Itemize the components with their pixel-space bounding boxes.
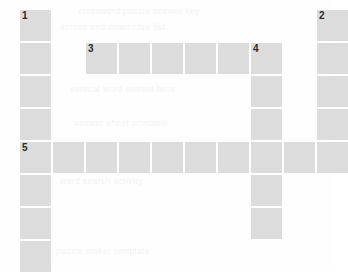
crossword-cell[interactable] [284,142,315,173]
crossword-cell[interactable]: 4 [251,43,282,74]
crossword-cell[interactable] [251,208,282,239]
crossword-cell[interactable] [20,76,51,107]
crossword-cell[interactable] [218,43,249,74]
crossword-cell[interactable] [53,142,84,173]
crossword-cell[interactable]: 3 [86,43,117,74]
crossword-cell[interactable]: 2 [317,10,348,41]
crossword-cell[interactable] [317,142,348,173]
crossword-cell[interactable] [251,109,282,140]
crossword-cell[interactable] [20,208,51,239]
crossword-cell[interactable] [251,142,282,173]
crossword-cell[interactable] [119,43,150,74]
crossword-cell[interactable] [20,109,51,140]
crossword-cell[interactable] [20,241,51,272]
crossword-cell[interactable] [20,175,51,206]
crossword-cell[interactable] [317,43,348,74]
crossword-clue-number: 2 [319,10,325,22]
crossword-cell[interactable] [317,109,348,140]
crossword-cell[interactable] [152,43,183,74]
crossword-cell[interactable]: 5 [20,142,51,173]
crossword-clue-number: 4 [253,43,259,55]
crossword-cell[interactable]: 1 [20,10,51,41]
crossword-clue-number: 3 [88,43,94,55]
crossword-cell[interactable] [185,142,216,173]
crossword-cell[interactable] [218,142,249,173]
crossword-cell[interactable] [119,142,150,173]
crossword-cell[interactable] [86,142,117,173]
crossword-cell[interactable] [251,175,282,206]
crossword-cell[interactable] [317,76,348,107]
crossword-clue-number: 5 [22,142,28,154]
crossword-cell[interactable] [20,43,51,74]
crossword-cell[interactable] [251,76,282,107]
crossword-cell[interactable] [152,142,183,173]
crossword-clue-number: 1 [22,10,28,22]
crossword-cell[interactable] [185,43,216,74]
